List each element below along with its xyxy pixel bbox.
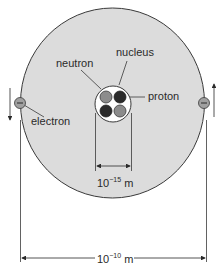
atom-diagram: nucleus neutron proton electron 10−15 m … xyxy=(0,0,221,272)
nucleus-size-label: 10−15 m xyxy=(97,176,133,189)
electron-right xyxy=(199,98,210,109)
proton-particle xyxy=(100,105,112,117)
atom-size-label: 10−10 m xyxy=(96,252,134,265)
label-proton: proton xyxy=(148,91,179,102)
proton-particle xyxy=(114,91,126,103)
neutron-particle xyxy=(114,105,126,117)
electron-left xyxy=(15,98,26,109)
nucleus xyxy=(95,86,131,122)
label-neutron: neutron xyxy=(56,58,93,69)
neutron-particle xyxy=(100,91,112,103)
label-electron: electron xyxy=(31,116,70,127)
label-nucleus: nucleus xyxy=(116,47,154,58)
